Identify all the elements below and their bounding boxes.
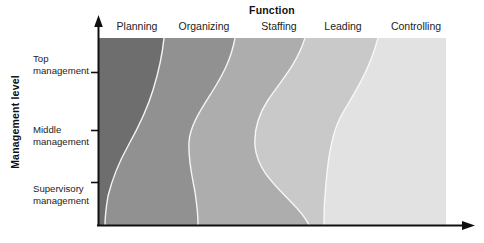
level-label-top: Top management [33, 53, 94, 76]
management-function-diagram: Function Management level [0, 0, 484, 243]
band-group [98, 38, 446, 225]
level-label-supervisory-line2: management [33, 195, 94, 207]
level-label-top-line1: Top [33, 53, 94, 65]
level-label-supervisory-line1: Supervisory [33, 183, 94, 195]
level-label-middle: Middle management [33, 124, 94, 147]
plot-area [0, 0, 484, 243]
level-label-supervisory: Supervisory management [33, 183, 94, 206]
level-label-middle-line2: management [33, 136, 94, 148]
function-label-controlling: Controlling [374, 20, 458, 32]
function-label-organizing: Organizing [163, 20, 245, 32]
y-axis-arrowhead [94, 15, 103, 27]
function-label-leading: Leading [310, 20, 376, 32]
function-label-planning: Planning [104, 20, 170, 32]
x-axis-arrowhead [462, 221, 475, 230]
level-label-middle-line1: Middle [33, 124, 94, 136]
function-label-staffing: Staffing [245, 20, 313, 32]
level-label-top-line2: management [33, 65, 94, 77]
